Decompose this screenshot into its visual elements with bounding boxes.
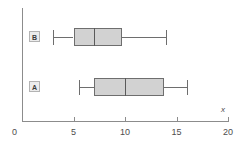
whisker-cap-upper (187, 80, 188, 95)
x-axis-tick (125, 117, 126, 122)
whisker-upper (122, 37, 166, 38)
x-axis-tick (22, 117, 23, 122)
whisker-cap-lower (79, 80, 80, 95)
x-axis-tick-label: 10 (115, 127, 135, 138)
group-label-b: B (29, 31, 40, 42)
x-axis-tick-label: 20 (218, 127, 238, 138)
whisker-cap-upper (166, 30, 167, 45)
y-axis-line (22, 8, 23, 121)
whisker-cap-lower (53, 30, 54, 45)
median-line (94, 28, 95, 46)
x-axis-label: x (221, 105, 225, 115)
group-label-a: A (29, 81, 40, 92)
box-iqr (74, 28, 122, 46)
whisker-lower (53, 37, 74, 38)
x-axis-tick-label: 15 (167, 127, 187, 138)
origin-label: 0 (12, 127, 17, 138)
boxplot-chart: 0 x 5101520 BA (0, 0, 243, 144)
x-axis-tick (228, 117, 229, 122)
whisker-upper (164, 87, 187, 88)
box-iqr (94, 78, 164, 96)
median-line (125, 78, 126, 96)
x-axis-tick-label: 5 (64, 127, 84, 138)
x-axis-tick (177, 117, 178, 122)
x-axis-tick (74, 117, 75, 122)
whisker-lower (79, 87, 94, 88)
